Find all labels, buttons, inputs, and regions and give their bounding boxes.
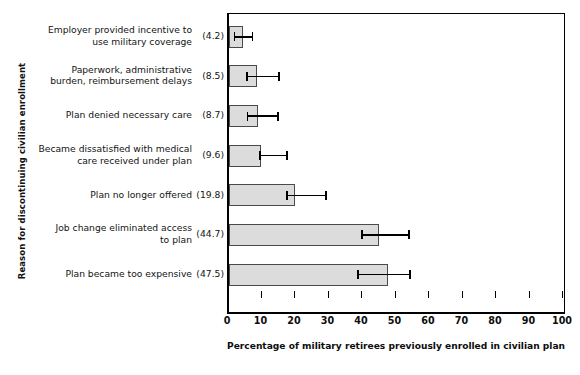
error-bar-cap <box>357 270 359 279</box>
x-axis-title: Percentage of military retirees previous… <box>227 341 562 351</box>
error-bar-line <box>362 234 409 236</box>
error-bar-cap <box>409 270 411 279</box>
error-bar-line <box>247 115 277 117</box>
category-label-line: use military coverage <box>24 36 192 48</box>
category-label: Plan no longer offered <box>24 189 192 201</box>
bar <box>229 224 379 246</box>
error-bar-line <box>287 195 326 197</box>
category-label: Job change eliminated accessto plan <box>24 222 192 245</box>
error-bar-cap <box>247 112 249 121</box>
error-bar-cap <box>259 151 261 160</box>
bar <box>229 145 261 167</box>
x-tick-mark <box>428 291 429 298</box>
category-label: Became dissatisfied with medicalcare rec… <box>24 143 192 166</box>
category-label: Plan became too expensive <box>24 268 192 280</box>
value-label-column: (4.2)(8.5)(8.7)(9.6)(19.8)(44.7)(47.5) <box>192 13 224 311</box>
value-label: (47.5) <box>192 268 224 280</box>
x-tick-label: 100 <box>542 315 580 326</box>
error-bar-cap <box>277 112 279 121</box>
error-bar-line <box>358 274 410 276</box>
value-label: (8.7) <box>192 109 224 121</box>
error-bar-line <box>234 36 252 38</box>
error-bar-cap <box>234 32 236 41</box>
plot-area <box>227 13 565 314</box>
x-tick-mark <box>261 291 262 298</box>
x-tick-mark <box>294 291 295 298</box>
error-bar-cap <box>286 151 288 160</box>
value-label: (19.8) <box>192 189 224 201</box>
category-label-line: Plan became too expensive <box>24 268 192 280</box>
category-label-line: Job change eliminated access <box>24 222 192 234</box>
value-label: (8.5) <box>192 70 224 82</box>
error-bar-cap <box>252 32 254 41</box>
x-tick-mark <box>495 291 496 298</box>
value-label: (44.7) <box>192 228 224 240</box>
x-tick-mark <box>395 291 396 298</box>
category-label: Employer provided incentive touse milita… <box>24 24 192 47</box>
error-bar-cap <box>246 72 248 81</box>
category-label: Plan denied necessary care <box>24 109 192 121</box>
error-bar-cap <box>361 230 363 239</box>
x-tick-mark <box>562 291 563 298</box>
category-label-line: burden, reimbursement delays <box>24 75 192 87</box>
value-label: (9.6) <box>192 149 224 161</box>
x-tick-mark <box>529 291 530 298</box>
error-bar-cap <box>286 191 288 200</box>
error-bar-cap <box>408 230 410 239</box>
category-label-line: Plan denied necessary care <box>24 109 192 121</box>
category-label-line: Paperwork, administrative <box>24 64 192 76</box>
category-label-line: Plan no longer offered <box>24 189 192 201</box>
category-label-line: care received under plan <box>24 155 192 167</box>
category-label-column: Employer provided incentive touse milita… <box>24 13 192 311</box>
category-label-line: Employer provided incentive to <box>24 24 192 36</box>
error-bar-cap <box>278 72 280 81</box>
error-bar-line <box>260 155 287 157</box>
x-tick-mark <box>361 291 362 298</box>
bar-chart: Reason for discontinuing civilian enroll… <box>0 0 580 375</box>
category-label-line: to plan <box>24 234 192 246</box>
x-tick-mark <box>328 291 329 298</box>
category-label: Paperwork, administrativeburden, reimbur… <box>24 64 192 87</box>
error-bar-cap <box>325 191 327 200</box>
error-bar-line <box>247 76 279 78</box>
value-label: (4.2) <box>192 30 224 42</box>
category-label-line: Became dissatisfied with medical <box>24 143 192 155</box>
x-tick-mark <box>462 291 463 298</box>
